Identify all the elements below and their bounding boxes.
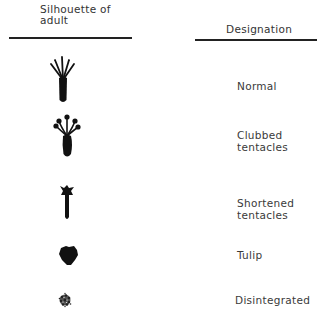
designation-column-header: Designation <box>226 24 292 35</box>
designation-shortened-tentacles: Shortened tentacles <box>237 197 294 221</box>
designation-clubbed-tentacles: Clubbed tentacles <box>237 129 288 153</box>
designation-tulip: Tulip <box>237 249 262 261</box>
tulip-polyp-icon <box>58 245 80 267</box>
silhouette-header-line2: adult <box>40 15 111 26</box>
silhouette-column-header: Silhouette of adult <box>40 4 111 26</box>
silhouette-header-rule <box>9 37 132 39</box>
shortened-tentacles-polyp-icon <box>58 184 78 222</box>
normal-polyp-icon <box>48 56 78 106</box>
designation-normal: Normal <box>237 80 277 92</box>
designation-header-rule <box>195 39 317 41</box>
disintegrated-polyp-icon <box>57 292 73 308</box>
designation-disintegrated: Disintegrated <box>235 294 310 306</box>
clubbed-tentacles-polyp-icon <box>53 114 83 160</box>
